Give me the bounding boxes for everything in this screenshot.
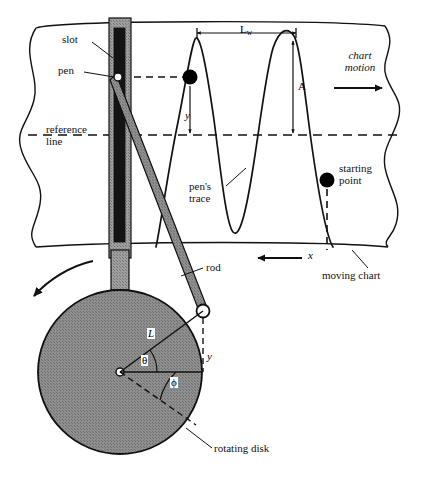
rotation-direction-arrow	[34, 261, 93, 296]
symbol-phi: ϕ	[170, 377, 178, 388]
slot-stem	[111, 250, 129, 290]
symbol-rod-length: L	[147, 328, 155, 339]
pen-position-dot	[183, 70, 198, 85]
chart-top-edge	[36, 22, 385, 28]
symbol-x: x	[307, 250, 314, 261]
label-chart-motion: chart motion	[330, 50, 390, 73]
label-pens-trace: pen's trace	[189, 181, 211, 204]
rotating-disk-leader-line	[186, 428, 212, 448]
symbol-chart-y: y	[184, 110, 191, 121]
pens-trace-leader-line	[226, 168, 246, 186]
label-rotating-disk: rotating disk	[214, 443, 269, 455]
moving-chart-leader-line	[352, 250, 368, 268]
pen-pivot	[114, 73, 122, 81]
label-moving-chart: moving chart	[322, 270, 380, 282]
label-reference-line: reference line	[46, 124, 87, 147]
label-pen: pen	[58, 65, 74, 77]
label-slot: slot	[62, 34, 78, 46]
starting-point-dot	[320, 173, 335, 188]
slot-inner-track	[114, 28, 125, 242]
figure-canvas: slot pen reference line pen's trace char…	[0, 0, 421, 498]
symbol-wavelength: Lw	[239, 24, 253, 38]
symbol-theta: θ	[141, 355, 148, 366]
label-starting-point: starting point	[339, 163, 372, 186]
chart-bottom-edge	[36, 243, 388, 248]
chart-left-torn-edge	[20, 28, 41, 247]
symbol-amplitude: A	[297, 81, 307, 92]
label-rod: rod	[206, 262, 221, 274]
pen-trace-curve	[156, 31, 333, 247]
symbol-disk-y: y	[206, 351, 213, 362]
